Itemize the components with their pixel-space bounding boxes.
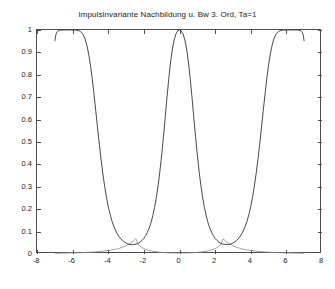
figure-canvas: Impulsinvariante Nachbildung u. Bw 3. Or… <box>0 0 335 289</box>
y-tick-label: 1 <box>0 25 32 34</box>
x-tick-label: -4 <box>104 256 111 265</box>
y-tick-label: 0.7 <box>0 92 32 101</box>
data-curves <box>55 30 304 253</box>
x-tick-label: 6 <box>283 256 287 265</box>
x-tick-label: -2 <box>140 256 147 265</box>
x-tick-label: 4 <box>248 256 252 265</box>
y-tick-label: 0.6 <box>0 114 32 123</box>
plot-svg <box>37 30 322 254</box>
data-series-line <box>55 30 304 245</box>
x-tick-label: -6 <box>68 256 75 265</box>
tick-marks <box>37 30 322 254</box>
x-tick-label: 8 <box>319 256 323 265</box>
y-tick-label: 0.1 <box>0 226 32 235</box>
plot-area <box>36 29 321 253</box>
y-tick-label: 0.8 <box>0 69 32 78</box>
chart-title: Impulsinvariante Nachbildung u. Bw 3. Or… <box>0 10 335 20</box>
y-tick-label: 0.2 <box>0 204 32 213</box>
y-tick-label: 0 <box>0 249 32 258</box>
y-tick-label: 0.5 <box>0 137 32 146</box>
x-tick-label: 2 <box>212 256 216 265</box>
x-tick-label: -8 <box>33 256 40 265</box>
x-tick-label: 0 <box>176 256 180 265</box>
y-tick-label: 0.9 <box>0 47 32 56</box>
y-tick-label: 0.3 <box>0 181 32 190</box>
y-tick-label: 0.4 <box>0 159 32 168</box>
data-series-line <box>55 239 304 254</box>
